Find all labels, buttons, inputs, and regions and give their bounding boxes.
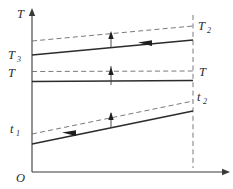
- y-axis-arrow-icon: [29, 8, 35, 16]
- origin-label: O: [16, 171, 25, 185]
- temperature-profile-chart: T O T 3 T t 1 T 2 T t 2: [0, 0, 233, 189]
- label-middle-left-base: T: [8, 66, 16, 80]
- hot-gap-arrow-icon: [108, 31, 113, 39]
- cold-stream-flow-arrow-icon: [62, 130, 76, 136]
- gap-marker-group: [108, 31, 113, 128]
- label-upper-left-sub: 3: [16, 55, 21, 64]
- y-axis-label: T: [17, 7, 25, 21]
- label-upper-right-base: T: [198, 19, 206, 33]
- cold-stream-group: [32, 101, 193, 144]
- cold-gap-arrow-icon: [108, 112, 113, 120]
- wall-temperature-dashed-line: [32, 71, 193, 72]
- figure-container: T O T 3 T t 1 T 2 T t 2: [0, 0, 233, 189]
- label-middle-right-base: T: [199, 65, 207, 79]
- hot-stream-solid-line: [32, 40, 193, 55]
- label-lower-right-sub: 2: [203, 97, 207, 106]
- label-upper-right-sub: 2: [207, 26, 211, 35]
- label-upper-left-base: T: [8, 48, 16, 62]
- wall-temperature-solid-line: [32, 81, 193, 82]
- hot-stream-group: [32, 26, 193, 55]
- label-lower-right-base: t: [197, 90, 201, 104]
- label-lower-left-sub: 1: [16, 129, 20, 138]
- x-axis-arrow-icon: [222, 169, 230, 175]
- label-lower-left-base: t: [10, 122, 14, 136]
- cold-stream-solid-line: [32, 111, 193, 144]
